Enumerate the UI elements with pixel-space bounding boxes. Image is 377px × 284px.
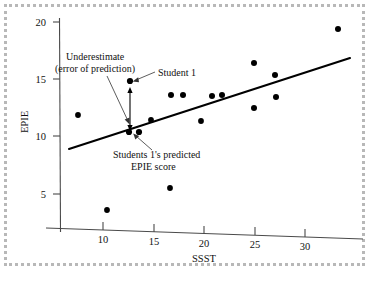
- x-axis: [46, 222, 363, 239]
- x-axis-title: SSST: [192, 253, 217, 264]
- data-point: [168, 92, 174, 98]
- data-point: [148, 117, 154, 123]
- y-axis-title: EPIE: [19, 111, 30, 133]
- plot-canvas: 20 15 10 5 10 15 20 25 30 SSST EPIE: [0, 0, 377, 284]
- error-of-prediction-arrow: [127, 87, 132, 131]
- data-point: [136, 129, 142, 135]
- x-tick-label-15: 15: [149, 236, 160, 247]
- y-axis: [53, 18, 61, 232]
- data-point: [126, 129, 132, 135]
- y-tick-label-20: 20: [36, 17, 47, 28]
- x-tick-label-10: 10: [98, 234, 109, 245]
- y-axis-line: [60, 18, 61, 232]
- x-tick-label-20: 20: [199, 238, 210, 249]
- x-tick-label-30: 30: [300, 241, 311, 252]
- y-tick-label-10: 10: [36, 131, 47, 142]
- annotation-predicted-leader: [133, 134, 152, 150]
- annotation-underestimate-line1: Underestimate: [66, 51, 125, 62]
- y-tick-label-5: 5: [41, 189, 46, 200]
- annotation-student-1-label: Student 1: [158, 67, 196, 78]
- data-point: [198, 118, 204, 124]
- data-point: [335, 26, 341, 32]
- data-point: [219, 92, 225, 98]
- data-point: [180, 92, 186, 98]
- annotation-underestimate-leader: [107, 76, 130, 125]
- data-point: [75, 112, 81, 118]
- data-point: [167, 185, 173, 191]
- data-point: [104, 207, 110, 213]
- scatter-plot-figure: 20 15 10 5 10 15 20 25 30 SSST EPIE: [0, 0, 377, 284]
- data-point: [251, 105, 257, 111]
- y-tick-label-15: 15: [36, 74, 47, 85]
- data-point: [209, 93, 215, 99]
- data-point: [273, 94, 279, 100]
- annotation-underestimate-line2: (error of prediction): [55, 63, 135, 75]
- annotation-student-1-leader: [133, 72, 155, 82]
- data-point: [272, 72, 278, 78]
- data-point-student-1: [127, 78, 133, 84]
- annotation-predicted-line1: Students 1's predicted: [113, 149, 200, 160]
- x-tick-label-25: 25: [250, 239, 261, 250]
- annotation-predicted-line2: EPIE score: [131, 161, 176, 172]
- data-point: [251, 60, 257, 66]
